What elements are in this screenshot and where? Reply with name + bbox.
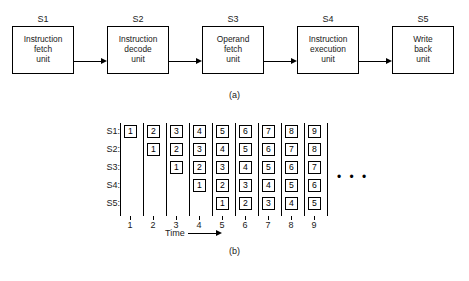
arrow-head-icon <box>216 230 222 236</box>
pipeline-figure: S1 Instruction fetch unit S2 Instruction… <box>0 0 469 281</box>
timing-cell: 5 <box>262 161 275 174</box>
stage-box-s2-line-3: unit <box>131 55 145 65</box>
stage-label-s1: S1 <box>12 14 74 25</box>
time-axis-tick-label-1: 1 <box>123 220 137 231</box>
stage-box-s2: Instruction decode unit <box>107 26 169 74</box>
timing-cell: 3 <box>239 179 252 192</box>
timing-cell: 1 <box>193 179 206 192</box>
timing-cell: 5 <box>285 179 298 192</box>
timing-cell: 7 <box>262 125 275 138</box>
stage-box-s1: Instruction fetch unit <box>12 26 74 74</box>
pipeline-timing-diagram: S1:S2:S3:S4:S5:1234567891234567812345671… <box>0 118 469 281</box>
timing-cell: 6 <box>262 143 275 156</box>
timing-cell: 4 <box>239 161 252 174</box>
timing-row-label-4: S4: <box>94 180 120 190</box>
arrow-shaft <box>188 233 216 234</box>
timing-cell: 5 <box>308 197 321 210</box>
pipeline-arrow-s1-s2 <box>74 58 107 65</box>
timing-cell: 3 <box>216 161 229 174</box>
timing-cell: 3 <box>193 143 206 156</box>
stage-label-s4: S4 <box>297 14 359 25</box>
stage-box-s1-line-3: unit <box>36 55 50 65</box>
stage-box-s3-line-3: unit <box>226 55 240 65</box>
timing-cell: 5 <box>216 125 229 138</box>
timing-cell: 8 <box>285 125 298 138</box>
timing-cell: 5 <box>239 143 252 156</box>
caption-part-b: (b) <box>0 246 469 256</box>
timing-cell: 9 <box>308 125 321 138</box>
stage-label-s3: S3 <box>202 14 264 25</box>
timing-cell: 6 <box>239 125 252 138</box>
timing-column-divider-2 <box>143 123 144 216</box>
stage-label-s2: S2 <box>107 14 169 25</box>
pipeline-stage-s2: S2 Instruction decode unit <box>107 14 169 25</box>
pipeline-stage-s1: S1 Instruction fetch unit <box>12 14 74 25</box>
timing-cell: 2 <box>216 179 229 192</box>
timing-cell: 3 <box>170 125 183 138</box>
timing-cell: 4 <box>216 143 229 156</box>
stage-box-s4-line-3: unit <box>321 55 335 65</box>
stage-box-s3: Operand fetch unit <box>202 26 264 74</box>
timing-cell: 7 <box>285 143 298 156</box>
timing-column-divider-4 <box>189 123 190 216</box>
timing-cell: 1 <box>147 143 160 156</box>
timing-cell: 1 <box>170 161 183 174</box>
timing-cell: 2 <box>239 197 252 210</box>
timing-cell: 8 <box>308 143 321 156</box>
time-axis-label-group: Time <box>165 228 222 238</box>
time-arrow-icon <box>188 230 222 237</box>
timing-cell: 4 <box>193 125 206 138</box>
pipeline-stage-s5: S5 Write back unit <box>392 14 454 25</box>
stage-box-s5-line-3: unit <box>416 55 430 65</box>
arrow-shaft <box>359 61 386 62</box>
pipeline-stage-s4: S4 Instruction execution unit <box>297 14 359 25</box>
timing-cell: 1 <box>124 125 137 138</box>
arrow-shaft <box>264 61 291 62</box>
timing-cell: 6 <box>285 161 298 174</box>
timing-column-divider-3 <box>166 123 167 216</box>
time-axis-tick-label-6: 6 <box>238 220 252 231</box>
arrow-shaft <box>74 61 101 62</box>
timing-cell: 4 <box>285 197 298 210</box>
pipeline-stage-s3: S3 Operand fetch unit <box>202 14 264 25</box>
timing-row-label-5: S5: <box>94 198 120 208</box>
time-axis-tick-label-7: 7 <box>261 220 275 231</box>
timing-column-divider-9 <box>304 123 305 216</box>
timing-cell: 6 <box>308 179 321 192</box>
timing-cell: 2 <box>147 125 160 138</box>
timing-cell: 3 <box>262 197 275 210</box>
continuation-ellipsis: • • • <box>337 170 369 184</box>
time-axis-tick-label-8: 8 <box>284 220 298 231</box>
time-axis-tick-label-2: 2 <box>146 220 160 231</box>
timing-column-divider-1 <box>120 123 121 216</box>
stage-box-s5: Write back unit <box>392 26 454 74</box>
timing-cell: 7 <box>308 161 321 174</box>
stage-box-s4: Instruction execution unit <box>297 26 359 74</box>
timing-cell: 2 <box>193 161 206 174</box>
timing-column-divider-8 <box>281 123 282 216</box>
caption-part-a: (a) <box>0 90 469 100</box>
pipeline-arrow-s3-s4 <box>264 58 297 65</box>
timing-row-label-3: S3: <box>94 162 120 172</box>
timing-row-label-1: S1: <box>94 126 120 136</box>
timing-cell: 1 <box>216 197 229 210</box>
pipeline-arrow-s4-s5 <box>359 58 392 65</box>
stage-label-s5: S5 <box>392 14 454 25</box>
pipeline-arrow-s2-s3 <box>169 58 202 65</box>
timing-column-divider-5 <box>212 123 213 216</box>
pipeline-block-diagram: S1 Instruction fetch unit S2 Instruction… <box>0 14 469 88</box>
timing-column-divider-10 <box>327 123 328 216</box>
arrow-shaft <box>169 61 196 62</box>
timing-column-divider-6 <box>235 123 236 216</box>
time-axis-label: Time <box>165 228 185 238</box>
timing-cell: 2 <box>170 143 183 156</box>
timing-column-divider-7 <box>258 123 259 216</box>
time-axis-tick-label-9: 9 <box>307 220 321 231</box>
timing-row-label-2: S2: <box>94 144 120 154</box>
timing-cell: 4 <box>262 179 275 192</box>
